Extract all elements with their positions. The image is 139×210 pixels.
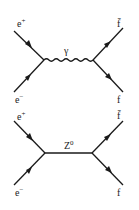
fermion-label: f bbox=[117, 187, 121, 198]
photon-label: γ bbox=[63, 45, 69, 56]
fermion-label: f bbox=[117, 94, 121, 105]
arrow-icon bbox=[26, 167, 32, 174]
feynman-diagrams: e+ e− γ f̄ f e+ e− Z0 f̄ f bbox=[0, 0, 139, 210]
electron-label: e− bbox=[15, 93, 23, 105]
z-exchange-diagram: e+ e− Z0 f̄ f bbox=[14, 110, 123, 198]
arrow-icon bbox=[25, 40, 32, 48]
antifermion-label: f̄ bbox=[117, 110, 121, 121]
z-boson-label: Z0 bbox=[64, 139, 74, 151]
electron-label: e− bbox=[15, 186, 23, 198]
photon-exchange-diagram: e+ e− γ f̄ f bbox=[14, 17, 123, 105]
antifermion-label: f̄ bbox=[117, 18, 121, 29]
positron-label: e+ bbox=[17, 110, 25, 122]
positron-label: e+ bbox=[17, 17, 25, 29]
photon-wavy-line bbox=[44, 59, 93, 62]
